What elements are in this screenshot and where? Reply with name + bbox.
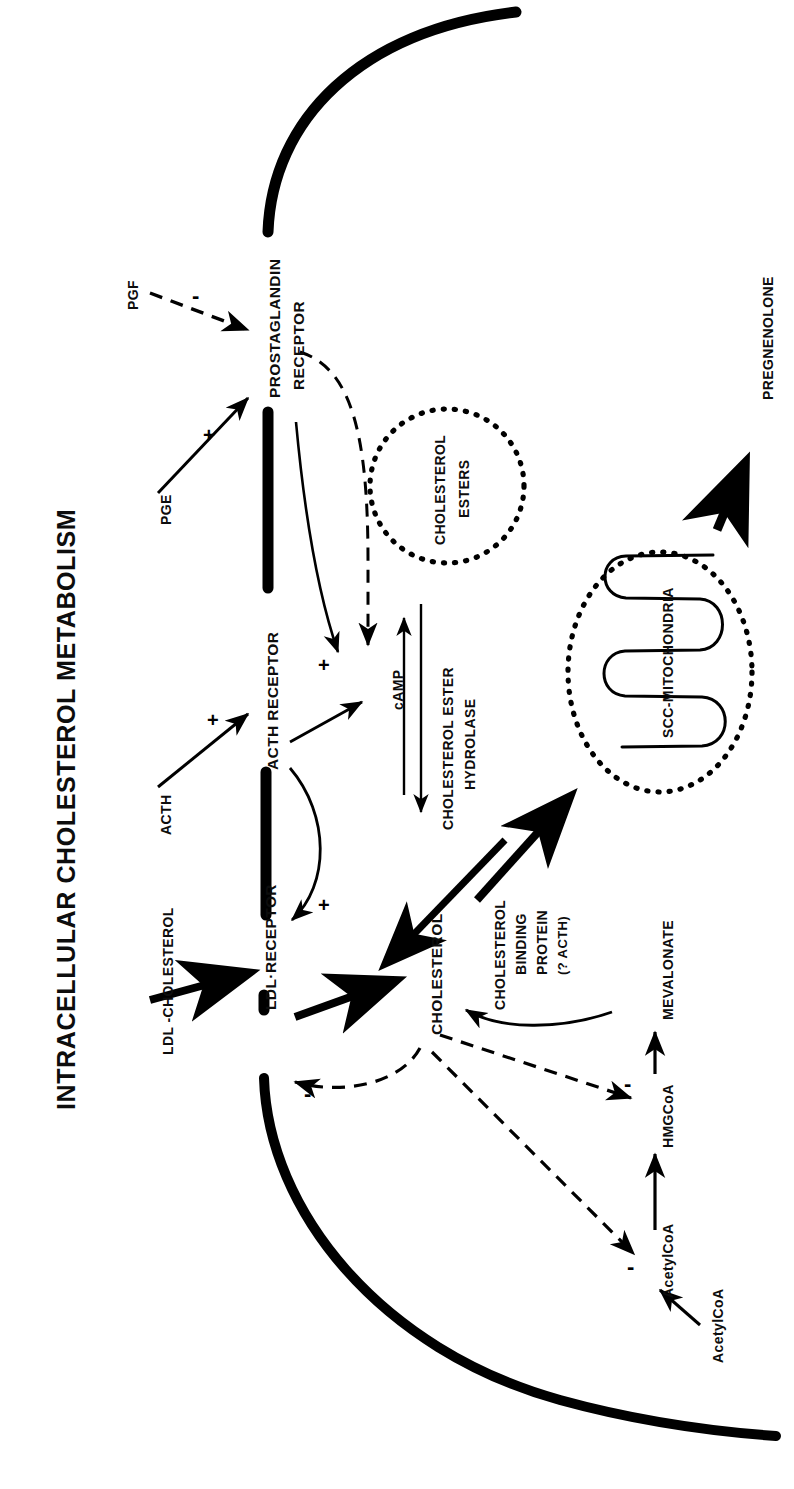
edge-acth-receptor-to-ldl-receptor bbox=[290, 768, 320, 920]
plasma-membrane-lower bbox=[264, 1078, 776, 1436]
edge-acth-receptor-to-camp bbox=[290, 702, 362, 742]
sign-pgf-inhibit: - bbox=[192, 285, 199, 307]
label-ldl-cholesterol: LDL -CHOLESTEROL bbox=[160, 907, 176, 1055]
page-title: INTRACELLULAR CHOLESTEROL METABOLISM bbox=[52, 509, 81, 1110]
sign-cholesterol-inhibits-acetylcoa: - bbox=[627, 1256, 634, 1278]
label-cholesterol-esters-line1: CHOLESTEROL bbox=[432, 435, 448, 545]
label-acth-receptor: ACTH RECEPTOR bbox=[264, 632, 282, 770]
label-cholesterol-binding-protein-line2: BINDING bbox=[513, 913, 529, 975]
edge-cholesterol-esters-to-cholesterol bbox=[388, 840, 505, 961]
edge-ldl-receptor-to-cholesterol bbox=[295, 982, 392, 1017]
edge-prostaglandin-receptor-to-camp bbox=[296, 422, 338, 652]
label-pge: PGE bbox=[158, 494, 174, 525]
plasma-membrane-upper bbox=[268, 12, 516, 232]
label-hmgcoa: HMGCoA bbox=[660, 1084, 676, 1148]
label-mevalonate: MEVALONATE bbox=[660, 920, 676, 1020]
sign-camp-inhibit-dashed: - bbox=[364, 622, 371, 644]
label-cholesterol-esters-line2: ESTERS bbox=[456, 460, 472, 518]
edge-prostaglandin-receptor-inhibit-camp bbox=[300, 352, 368, 645]
label-acetylcoa-2: AcetylCoA bbox=[710, 1289, 726, 1363]
sign-acth-stimulate: + bbox=[207, 710, 219, 730]
edge-cholesterol-inhibits-ldl-receptor bbox=[295, 1048, 420, 1087]
sign-pge-stimulate: + bbox=[203, 425, 215, 445]
sign-camp-from-pg-receptor: + bbox=[318, 655, 330, 675]
edge-mevalonate-to-cholesterol bbox=[466, 1010, 612, 1025]
label-prostaglandin-receptor-line2: RECEPTOR bbox=[290, 301, 308, 390]
label-cholesterol-binding-protein-line1: CHOLESTEROL bbox=[492, 900, 508, 1010]
label-cholesterol-binding-protein-line4: (? ACTH) bbox=[555, 916, 570, 975]
sign-cholesterol-inhibits-hmgcoa: - bbox=[624, 1073, 631, 1095]
label-ldl-receptor: LDL·RECEPTOR bbox=[262, 884, 280, 1010]
edge-acth-to-acth-receptor bbox=[158, 714, 248, 787]
sign-cholesterol-inhibits-ldl-receptor: - bbox=[304, 1083, 311, 1105]
label-cholesterol: CHOLESTEROL bbox=[428, 913, 446, 1035]
sign-ldl-receptor-stimulate: + bbox=[318, 895, 330, 915]
edge-mitochondria-to-pregnenolone bbox=[717, 468, 743, 530]
figure-canvas: INTRACELLULAR CHOLESTEROL METABOLISM PGF… bbox=[0, 0, 794, 1489]
label-pregnenolone: PREGNENOLONE bbox=[760, 276, 776, 400]
label-prostaglandin-receptor-line1: PROSTAGLANDIN bbox=[266, 259, 284, 398]
label-cholesterol-binding-protein-line3: PROTEIN bbox=[534, 910, 550, 975]
label-acth: ACTH bbox=[158, 795, 174, 835]
label-scc-mitochondria: SCC-MITOCHONDRIA bbox=[660, 587, 676, 738]
label-cholesterol-ester-hydrolase-line2: HYDROLASE bbox=[462, 699, 478, 791]
label-cholesterol-ester-hydrolase-line1: CHOLESTEROL ESTER bbox=[440, 667, 456, 830]
edge-cholesterol-inhibits-acetylcoa bbox=[432, 1052, 634, 1254]
label-pgf: PGF bbox=[125, 280, 141, 310]
label-acetylcoa-1: AcetylCoA bbox=[660, 1224, 676, 1298]
label-camp: cAMP bbox=[390, 670, 406, 711]
